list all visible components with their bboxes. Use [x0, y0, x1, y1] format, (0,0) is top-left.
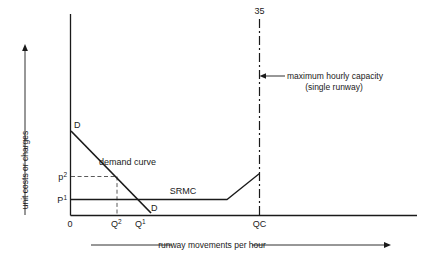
srmc-curve-label: SRMC	[170, 186, 197, 196]
quantity-2-superscript: 2	[118, 218, 122, 225]
srmc-curve-group: SRMC	[71, 174, 260, 200]
x-axis-caption-label: runway movements per hour	[158, 240, 266, 250]
x-caption-arrow-head-icon	[384, 242, 391, 248]
quantity-1-tick-label: Q1	[135, 218, 146, 230]
price-2-superscript: 2	[63, 171, 67, 178]
demand-curve-line	[71, 131, 151, 213]
quantity-1-superscript: 1	[142, 218, 146, 225]
annotation-line-2: (single runway)	[305, 82, 363, 92]
quantity-1-base: Q	[135, 219, 142, 229]
runway-capacity-pricing-chart: unit costs or charges 35 maximum hourly …	[0, 0, 429, 261]
price-1-superscript: 1	[63, 194, 67, 201]
demand-top-label: D	[74, 120, 81, 130]
capacity-quantity-tick-label: QC	[253, 219, 267, 229]
annotation-line-1: maximum hourly capacity	[287, 71, 384, 81]
guideline-group	[71, 177, 117, 216]
price-1-tick-label: P1	[57, 194, 67, 206]
srmc-curve-line	[71, 174, 260, 200]
quantity-2-tick-label: Q2	[111, 218, 122, 230]
quantity-2-base: Q	[111, 219, 118, 229]
economics-diagram: unit costs or charges 35 maximum hourly …	[0, 0, 429, 261]
price-2-tick-label: p2	[58, 171, 67, 183]
capacity-line-group: 35	[254, 6, 264, 216]
y-caption-arrow-head-icon	[22, 44, 28, 51]
annotation-arrow-head-icon	[260, 73, 267, 79]
y-axis-caption-group: unit costs or charges	[20, 44, 30, 215]
demand-curve-label: demand curve	[99, 157, 156, 167]
origin-tick-label: 0	[67, 219, 72, 229]
y-axis-tick-labels-group: p2 P1	[57, 171, 67, 206]
x-axis-caption-group: runway movements per hour	[91, 240, 391, 250]
x-axis-tick-labels-group: 0 Q2 Q1 QC	[67, 218, 266, 230]
y-axis-caption-label: unit costs or charges	[20, 131, 30, 209]
capacity-annotation-group: maximum hourly capacity (single runway)	[260, 71, 384, 92]
capacity-value-label: 35	[254, 6, 264, 16]
demand-bottom-label: D	[151, 203, 158, 213]
